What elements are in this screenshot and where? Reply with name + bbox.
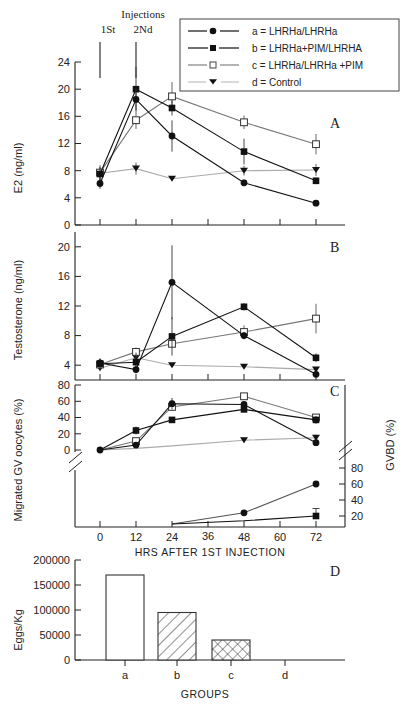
injections-title: Injections xyxy=(121,8,164,20)
open-square-icon xyxy=(210,62,216,68)
panel-A-ytick-20: 20 xyxy=(58,83,70,95)
panel-C-xtick-36: 36 xyxy=(202,530,214,542)
panel-C-xtick-0: 0 xyxy=(97,531,103,543)
legend-label-c: c = LHRHa/LHRHa +PIM xyxy=(252,60,363,71)
panel-A-ytick-16: 16 xyxy=(58,110,70,122)
panel-A-ytick-12: 12 xyxy=(58,137,70,149)
bar-b xyxy=(158,613,196,661)
panel-C-xtick-60: 60 xyxy=(274,531,286,543)
panel-D-ylabel: Eggs/Kg xyxy=(12,609,24,651)
legend-label-a: a = LHRHa/LHRHa xyxy=(252,26,338,37)
legend: a = LHRHa/LHRHa b = LHRHa+PIM/LHRHA c = … xyxy=(180,19,399,91)
panel-A-ytick-0: 0 xyxy=(64,219,70,231)
panel-C-ytick-60: 60 xyxy=(58,395,70,407)
injection-1-label: 1St xyxy=(101,23,116,35)
panel-C-right-ytick-60: 60 xyxy=(351,478,363,490)
panel-C-label: C xyxy=(330,384,339,399)
panel-D-ytick-150000: 150000 xyxy=(33,579,70,591)
panel-D-xtick-b: b xyxy=(174,669,180,681)
injection-2-label: 2Nd xyxy=(134,23,153,35)
panel-B-ylabel: Testosterone (ng/ml) xyxy=(12,260,24,360)
panel-C-xtick-24: 24 xyxy=(166,531,178,543)
panel-C-right-ytick-40: 40 xyxy=(351,494,363,506)
filled-circle-icon xyxy=(210,28,217,35)
bar-c xyxy=(212,640,250,660)
panel-C-right-ytick-80: 80 xyxy=(351,462,363,474)
panel-A-ytick-8: 8 xyxy=(64,165,70,177)
figure-container: Injections 1St 2Nd a = LHRHa/LHRHa b = L… xyxy=(0,0,408,709)
panel-C-right-ytick-20: 20 xyxy=(351,510,363,522)
figure-background xyxy=(0,0,408,709)
panel-A-label: A xyxy=(330,116,341,131)
legend-label-b: b = LHRHa+PIM/LHRHA xyxy=(252,43,362,54)
panel-C-ytick-20: 20 xyxy=(58,428,70,440)
panel-C-ylabel: Migrated GV oocytes (%) xyxy=(12,399,24,522)
filled-square-icon xyxy=(210,45,216,51)
panel-C-xlabel: HRS AFTER 1ST INJECTION xyxy=(135,546,286,558)
panel-D-xtick-c: c xyxy=(228,669,234,681)
multi-panel-figure: Injections 1St 2Nd a = LHRHa/LHRHa b = L… xyxy=(0,0,408,709)
panel-D-ytick-0: 0 xyxy=(64,654,70,666)
panel-A-ytick-4: 4 xyxy=(64,192,70,204)
panel-B-ytick-20: 20 xyxy=(58,241,70,253)
panel-C-ytick-0: 0 xyxy=(64,444,70,456)
panel-A-ylabel: E2 (ng/ml) xyxy=(12,143,24,194)
panel-D-xtick-a: a xyxy=(122,669,129,681)
panel-C-ytick-40: 40 xyxy=(58,411,70,423)
panel-C-xtick-12: 12 xyxy=(130,531,142,543)
panel-C-xtick-72: 72 xyxy=(310,531,322,543)
panel-C-xtick-48: 48 xyxy=(238,531,250,543)
panel-B-ytick-16: 16 xyxy=(58,270,70,282)
panel-B-ytick-8: 8 xyxy=(64,329,70,341)
panel-B-ytick-12: 12 xyxy=(58,300,70,312)
panel-D-label: D xyxy=(330,564,340,579)
panel-D-ytick-100000: 100000 xyxy=(33,604,70,616)
panel-D-xtick-d: d xyxy=(282,669,288,681)
legend-label-d: d = Control xyxy=(252,77,301,88)
panel-B-ytick-4: 4 xyxy=(64,359,70,371)
panel-D-ytick-50000: 50000 xyxy=(39,629,70,641)
panel-D-xlabel: GROUPS xyxy=(181,688,230,700)
panel-A-ytick-24: 24 xyxy=(58,56,70,68)
panel-C-ylabel-right: GVBD (%) xyxy=(384,419,396,470)
panel-B-label: B xyxy=(330,240,339,255)
panel-D-ytick-200000: 200000 xyxy=(33,554,70,566)
panel-C-ytick-80: 80 xyxy=(58,379,70,391)
bar-a xyxy=(106,575,144,660)
